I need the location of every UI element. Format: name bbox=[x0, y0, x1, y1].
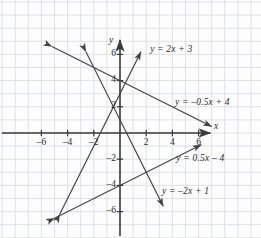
y-tick-label: 4 bbox=[98, 74, 116, 84]
x-tick-label: –6 bbox=[32, 137, 50, 147]
x-axis-label: x bbox=[214, 121, 218, 131]
y-tick-label: 6 bbox=[98, 48, 116, 58]
equation-label-line-2: y = –0.5x + 4 bbox=[175, 97, 230, 107]
y-tick-label: –6 bbox=[98, 205, 116, 215]
equation-label-line-3: y = 0.5x – 4 bbox=[176, 153, 224, 163]
x-tick-label: –2 bbox=[85, 137, 103, 147]
background-grid bbox=[0, 0, 261, 238]
x-tick-label: –4 bbox=[59, 137, 77, 147]
equation-label-line-4: y = –2x + 1 bbox=[162, 186, 209, 196]
equation-label-line-1: y = 2x + 3 bbox=[150, 44, 192, 54]
x-tick-label: 2 bbox=[137, 137, 155, 147]
x-tick-label: 4 bbox=[163, 137, 181, 147]
coordinate-plane-figure: –6–4–2246642–2–4–6 x y y = 2x + 3 y = –0… bbox=[0, 0, 261, 238]
y-tick-label: –4 bbox=[98, 179, 116, 189]
x-tick-label: 6 bbox=[190, 137, 208, 147]
y-tick-label: –2 bbox=[98, 153, 116, 163]
y-tick-label: 2 bbox=[98, 100, 116, 110]
y-axis-label: y bbox=[109, 35, 113, 45]
plot-canvas bbox=[0, 0, 261, 238]
plotted-line-2 bbox=[52, 47, 212, 127]
